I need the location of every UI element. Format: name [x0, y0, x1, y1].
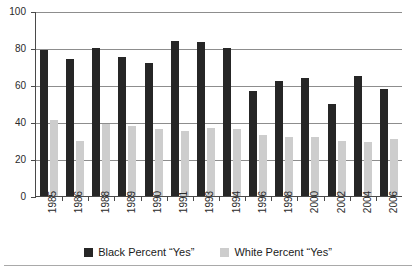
bar-group-1989	[114, 12, 140, 196]
x-label-cell-2006: 2006	[376, 202, 402, 246]
x-tick-2004	[350, 196, 351, 201]
x-tick-1998	[271, 196, 272, 201]
chart-figure: 020406080100 198519861988198919901991199…	[0, 0, 416, 273]
bar-group-1991	[167, 12, 193, 196]
bar-black-1988	[92, 48, 100, 196]
plot-area-wrapper: 020406080100	[0, 0, 416, 210]
y-tick-label-0: 0	[0, 192, 26, 202]
x-label-cell-2002: 2002	[323, 202, 349, 246]
bar-group-1993	[193, 12, 219, 196]
bar-white-2000	[311, 137, 319, 196]
x-label-cell-1993: 1993	[192, 202, 218, 246]
x-tick-1993	[193, 196, 194, 201]
x-axis-label-1991: 1991	[178, 191, 189, 213]
bar-white-1986	[76, 141, 84, 197]
x-label-cell-2004: 2004	[350, 202, 376, 246]
x-axis-label-2002: 2002	[336, 191, 347, 213]
bar-group-2000	[297, 12, 323, 196]
x-label-cell-2000: 2000	[297, 202, 323, 246]
x-axis-label-2006: 2006	[388, 191, 399, 213]
legend-swatch-white	[220, 248, 229, 257]
bar-group-1996	[245, 12, 271, 196]
x-tick-1994	[219, 196, 220, 201]
legend-item-2: White Percent “Yes”	[220, 247, 331, 258]
bar-black-2000	[301, 78, 309, 196]
bar-black-2002	[328, 104, 336, 197]
bar-group-2002	[324, 12, 350, 196]
y-tick-mark-0	[31, 197, 36, 198]
x-label-cell-1990: 1990	[140, 202, 166, 246]
bar-group-1990	[141, 12, 167, 196]
bar-white-2004	[364, 142, 372, 196]
x-axis-label-2000: 2000	[309, 191, 320, 213]
bar-white-1994	[233, 129, 241, 196]
x-tick-2000	[297, 196, 298, 201]
legend-label-2: White Percent “Yes”	[234, 247, 331, 258]
x-label-cell-1998: 1998	[271, 202, 297, 246]
x-tick-2002	[324, 196, 325, 201]
bar-group-1986	[62, 12, 88, 196]
bar-black-1998	[275, 81, 283, 196]
legend-swatch-black	[84, 248, 93, 257]
bar-black-1996	[249, 91, 257, 196]
footer-divider	[4, 265, 412, 266]
x-tick-1996	[245, 196, 246, 201]
y-tick-label-80: 80	[0, 44, 26, 54]
x-axis-label-1990: 1990	[152, 191, 163, 213]
bar-white-1996	[259, 135, 267, 196]
bar-groups	[36, 12, 402, 196]
x-axis-label-1988: 1988	[100, 191, 111, 213]
x-axis-label-1989: 1989	[126, 191, 137, 213]
bar-black-1993	[197, 42, 205, 196]
legend-label-1: Black Percent “Yes”	[98, 247, 194, 258]
bar-white-1998	[285, 137, 293, 196]
x-axis-label-1994: 1994	[231, 191, 242, 213]
x-label-cell-1996: 1996	[245, 202, 271, 246]
bar-white-1985	[50, 120, 58, 196]
bar-white-2006	[390, 139, 398, 196]
bar-white-1990	[155, 129, 163, 196]
x-label-cell-1988: 1988	[87, 202, 113, 246]
x-axis-label-1998: 1998	[283, 191, 294, 213]
x-axis-label-1985: 1985	[47, 191, 58, 213]
x-tick-2006	[376, 196, 377, 201]
bar-black-1990	[145, 63, 153, 196]
bar-group-1985	[36, 12, 62, 196]
y-tick-label-20: 20	[0, 155, 26, 165]
plot-area	[35, 12, 402, 197]
chart-legend: Black Percent “Yes”White Percent “Yes”	[0, 244, 416, 260]
y-tick-label-100: 100	[0, 7, 26, 17]
x-tick-1990	[141, 196, 142, 201]
y-tick-label-40: 40	[0, 118, 26, 128]
x-axis-label-1996: 1996	[257, 191, 268, 213]
x-label-cell-1989: 1989	[114, 202, 140, 246]
x-label-cell-1991: 1991	[166, 202, 192, 246]
legend-item-1: Black Percent “Yes”	[84, 247, 194, 258]
x-axis-label-1986: 1986	[73, 191, 84, 213]
bar-black-2004	[354, 76, 362, 196]
bar-black-1991	[171, 41, 179, 196]
x-tick-1988	[88, 196, 89, 201]
x-tick-1989	[114, 196, 115, 201]
x-label-cell-1986: 1986	[61, 202, 87, 246]
x-label-cell-1994: 1994	[219, 202, 245, 246]
bar-white-2002	[338, 141, 346, 197]
bar-black-2006	[380, 89, 388, 196]
y-tick-label-60: 60	[0, 81, 26, 91]
bar-group-2006	[376, 12, 402, 196]
x-label-cell-1985: 1985	[35, 202, 61, 246]
x-tick-1986	[62, 196, 63, 201]
bar-white-1988	[102, 124, 110, 196]
bar-black-1994	[223, 48, 231, 196]
bar-black-1986	[66, 59, 74, 196]
x-tick-1991	[167, 196, 168, 201]
bar-group-2004	[350, 12, 376, 196]
bar-black-1985	[40, 50, 48, 196]
x-axis-label-1993: 1993	[204, 191, 215, 213]
bar-group-1994	[219, 12, 245, 196]
bar-group-1988	[88, 12, 114, 196]
bar-white-1989	[128, 126, 136, 196]
bar-group-1998	[271, 12, 297, 196]
bar-black-1989	[118, 57, 126, 196]
x-axis-labels: 1985198619881989199019911993199419961998…	[35, 202, 402, 246]
